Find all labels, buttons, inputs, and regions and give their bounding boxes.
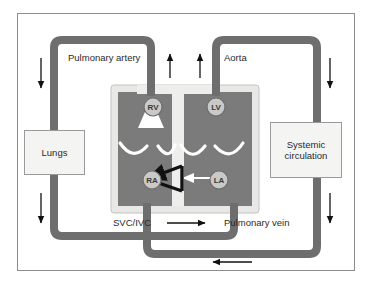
right-ventricle-label: RV <box>145 104 161 112</box>
right-atrium-label: RA <box>144 177 160 185</box>
left-atrium-label: LA <box>211 177 227 185</box>
systemic-circulation-box: Systemic circulation <box>270 122 342 178</box>
aorta-stub <box>212 82 220 96</box>
pulmonary-vein-label: Pulmonary vein <box>224 217 289 228</box>
pulmonary-artery-label: Pulmonary artery <box>68 52 140 63</box>
lungs-label: Lungs <box>42 147 68 158</box>
aorta-label: Aorta <box>224 52 247 63</box>
systemic-label-line2: circulation <box>285 150 328 161</box>
pulmonary-artery-stub <box>147 82 155 96</box>
lungs-box: Lungs <box>24 130 85 175</box>
pulmonary-vein-stub <box>230 203 238 217</box>
systemic-circulation-label: Systemic circulation <box>285 139 328 162</box>
systemic-label-line1: Systemic <box>287 139 326 150</box>
diagram-canvas: Lungs Systemic circulation Pulmonary art… <box>0 0 373 288</box>
left-ventricle-label: LV <box>208 104 224 112</box>
svc-ivc-label: SVC/IVC <box>113 217 151 228</box>
svc-ivc-stub <box>143 203 151 217</box>
